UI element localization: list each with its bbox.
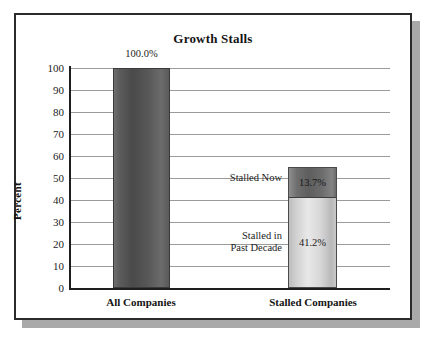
y-tick-10: 10 [30,261,64,272]
annotation-stalled-past-decade-line2: Past Decade [188,242,282,254]
y-axis-line [69,66,71,290]
y-tick-90: 90 [30,85,64,96]
segment-stalled-past-decade: 41.2% [289,198,336,287]
y-axis-title: Percent [11,182,23,220]
chart-figure: Growth Stalls 100 90 80 70 60 50 40 30 2… [0,0,429,346]
chart-title: Growth Stalls [16,31,410,47]
y-tick-70: 70 [30,129,64,140]
y-tick-40: 40 [30,195,64,206]
bar-all-companies-value: 100.0% [113,48,170,59]
x-axis-line [69,288,390,290]
segment-stalled-now: 13.7% [289,168,336,198]
y-tick-80: 80 [30,107,64,118]
bar-all-companies [113,68,170,288]
segment-stalled-past-decade-value: 41.2% [299,237,326,248]
category-label-stalled-companies: Stalled Companies [258,296,368,308]
segment-stalled-now-value: 13.7% [299,177,326,188]
bar-stalled-companies: 13.7% 41.2% [288,167,337,288]
category-label-all-companies: All Companies [91,296,191,308]
y-tick-50: 50 [30,173,64,184]
annotation-stalled-past-decade: Stalled in Past Decade [188,230,282,255]
y-tick-20: 20 [30,239,64,250]
y-tick-100: 100 [30,63,64,74]
annotation-stalled-now: Stalled Now [196,172,282,184]
y-tick-30: 30 [30,217,64,228]
y-axis-ticks: 100 90 80 70 60 50 40 30 20 10 0 Percent [28,68,64,288]
y-tick-60: 60 [30,151,64,162]
y-tick-0: 0 [30,283,64,294]
annotation-stalled-past-decade-line1: Stalled in [188,230,282,242]
